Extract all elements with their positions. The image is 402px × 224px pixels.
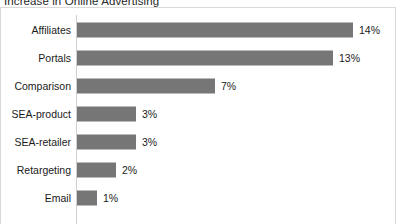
bar[interactable]: [77, 79, 215, 94]
category-label: Comparison: [14, 80, 71, 92]
bar[interactable]: [77, 135, 136, 150]
bar-value-label: 7%: [221, 80, 236, 92]
bar-value-label: 3%: [142, 108, 157, 120]
plot-area: Affiliates14%Portals13%Comparison7%SEA-p…: [0, 15, 396, 224]
bar-row: Portals13%: [0, 44, 396, 72]
category-label: Retargeting: [17, 164, 71, 176]
category-label: Affiliates: [32, 24, 72, 36]
bar-fill: [77, 163, 116, 178]
bar-fill: [77, 107, 136, 122]
category-label: SEA-product: [11, 108, 71, 120]
bar-value-label: 1%: [103, 192, 118, 204]
category-label: SEA-retailer: [14, 136, 71, 148]
bar-value-label: 3%: [142, 136, 157, 148]
bar-fill: [77, 135, 136, 150]
chart-title: Increase in Online Advertising: [4, 0, 159, 7]
bar-chart-figure: Increase in Online Advertising Affiliate…: [0, 0, 402, 224]
bar[interactable]: [77, 191, 97, 206]
bar-fill: [77, 79, 215, 94]
bar[interactable]: [77, 23, 353, 38]
bar-row: SEA-retailer3%: [0, 128, 396, 156]
bar-row: Affiliates14%: [0, 16, 396, 44]
bar[interactable]: [77, 163, 116, 178]
bar-value-label: 2%: [122, 164, 137, 176]
bar-fill: [77, 191, 97, 206]
bar-row: Comparison7%: [0, 72, 396, 100]
bar-value-label: 13%: [339, 52, 360, 64]
bar[interactable]: [77, 51, 333, 66]
bar[interactable]: [77, 107, 136, 122]
bar-fill: [77, 23, 353, 38]
bar-row: Email1%: [0, 184, 396, 212]
bar-value-label: 14%: [359, 24, 380, 36]
category-label: Portals: [38, 52, 71, 64]
bar-row: SEA-product3%: [0, 100, 396, 128]
bar-row: Retargeting2%: [0, 156, 396, 184]
bar-fill: [77, 51, 333, 66]
category-label: Email: [45, 192, 71, 204]
